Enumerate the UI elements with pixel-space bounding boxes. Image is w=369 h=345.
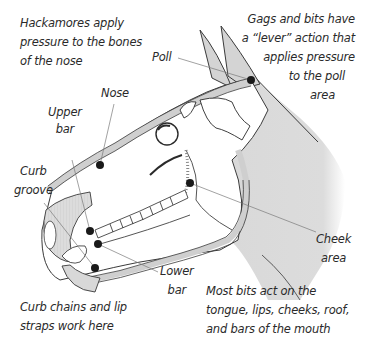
horse-head-diagram: Hackamores apply pressure to the bones o…	[0, 0, 369, 345]
label-line: bar	[160, 281, 194, 300]
note-line: to the poll	[242, 67, 355, 86]
gags-note: Gags and bits have a “lever” action that…	[242, 10, 355, 105]
label-line: Curb	[14, 162, 53, 181]
note-line: Curb chains and lip	[20, 298, 127, 317]
note-line: and bars of the mouth	[206, 320, 349, 339]
label-line: Cheek	[316, 230, 351, 249]
label-poll: Poll	[152, 48, 172, 67]
hackamore-note: Hackamores apply pressure to the bones o…	[20, 14, 142, 71]
note-line: straps work here	[20, 317, 127, 336]
note-line: Hackamores apply	[20, 14, 142, 33]
dot-upper-bar	[86, 227, 94, 235]
note-line: of the nose	[20, 52, 142, 71]
label-curb-groove: Curb groove	[14, 162, 53, 200]
dot-cheek	[186, 179, 194, 187]
note-line: a “lever” action that	[242, 29, 355, 48]
label-cheek-area: Cheek area	[316, 230, 351, 268]
label-lower-bar: Lower bar	[160, 262, 194, 300]
label-line: Upper	[48, 104, 82, 121]
dot-nose	[96, 161, 104, 169]
label-line: bar	[48, 121, 82, 138]
label-nose: Nose	[101, 84, 129, 103]
most-bits-note: Most bits act on the tongue, lips, cheek…	[206, 282, 349, 339]
note-line: tongue, lips, cheeks, roof,	[206, 301, 349, 320]
label-line: Lower	[160, 262, 194, 281]
note-line: Gags and bits have	[242, 10, 355, 29]
note-line: pressure to the bones	[20, 33, 142, 52]
note-line: Most bits act on the	[206, 282, 349, 301]
dot-lower-bar	[94, 240, 102, 248]
curb-chains-note: Curb chains and lip straps work here	[20, 298, 127, 336]
dot-curb-groove	[91, 264, 99, 272]
label-line: area	[316, 249, 351, 268]
label-upper-bar: Upper bar	[48, 104, 82, 138]
note-line: applies pressure	[242, 48, 355, 67]
note-line: area	[242, 86, 355, 105]
label-line: groove	[14, 181, 53, 200]
